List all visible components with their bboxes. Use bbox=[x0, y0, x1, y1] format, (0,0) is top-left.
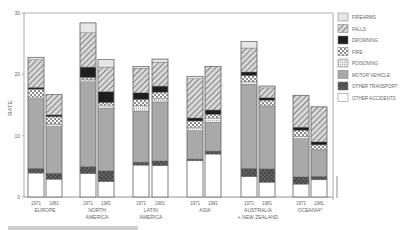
segment-other-accidents bbox=[28, 173, 44, 197]
year-label: 1981 bbox=[155, 201, 166, 206]
legend-item-drowning: DROWNING bbox=[338, 36, 378, 44]
legend-swatch bbox=[338, 94, 348, 102]
year-label: 1971 bbox=[244, 201, 255, 206]
segment-falls bbox=[133, 68, 149, 93]
bar-asia-1981 bbox=[205, 66, 221, 197]
segment-motor-vehicle bbox=[293, 139, 309, 177]
year-label: 1981 bbox=[262, 201, 273, 206]
plot-frame bbox=[24, 13, 333, 200]
segment-firearms bbox=[241, 41, 257, 48]
segment-other-transport bbox=[187, 159, 203, 161]
footnote bbox=[8, 226, 138, 230]
segment-fire bbox=[311, 145, 327, 149]
year-label: 1981 bbox=[101, 201, 112, 206]
bar-oceania--1971 bbox=[293, 95, 309, 197]
segment-falls bbox=[205, 66, 221, 110]
segment-falls bbox=[293, 95, 309, 127]
legend-label: FIRE bbox=[352, 50, 362, 55]
segment-other-accidents bbox=[259, 182, 275, 197]
bar-australia-new-zealand-1981 bbox=[259, 86, 275, 197]
segment-falls bbox=[28, 60, 44, 88]
year-label: 1971 bbox=[31, 201, 42, 206]
group-label: EUROPE bbox=[34, 207, 56, 213]
bar-asia-1971 bbox=[187, 76, 203, 197]
segment-poisoning bbox=[28, 97, 44, 99]
year-label: 1971 bbox=[136, 201, 147, 206]
segment-drowning bbox=[80, 67, 96, 77]
segment-other-transport bbox=[46, 173, 62, 179]
segment-other-accidents bbox=[46, 179, 62, 197]
bar-europe-1981 bbox=[46, 95, 62, 197]
year-label: 1971 bbox=[296, 201, 307, 206]
year-label: 1981 bbox=[208, 201, 219, 206]
group-label: LATIN bbox=[144, 207, 158, 213]
segment-drowning bbox=[133, 93, 149, 100]
group-label: NORTH bbox=[88, 207, 106, 213]
segment-falls bbox=[152, 62, 168, 86]
legend-item-motor-vehicle: MOTOR VEHICLE bbox=[338, 71, 390, 79]
segment-fire bbox=[98, 103, 114, 105]
segment-drowning bbox=[311, 142, 327, 145]
segment-falls bbox=[98, 67, 114, 92]
bar-oceania--1981 bbox=[311, 107, 327, 197]
year-label: 1971 bbox=[190, 201, 201, 206]
segment-other-transport bbox=[98, 171, 114, 182]
segment-firearms bbox=[98, 60, 114, 67]
legend-item-firearms: FIREARMS bbox=[338, 13, 376, 21]
segment-poisoning bbox=[205, 118, 221, 122]
legend-item-other-transport: OTHER TRANSPORT bbox=[338, 82, 398, 90]
x-axis-labels: 1971198119711981197119811971198119711981… bbox=[31, 201, 325, 220]
segment-drowning bbox=[205, 110, 221, 114]
bar-latin-america-1971 bbox=[133, 66, 149, 197]
year-label: 1981 bbox=[49, 201, 60, 206]
segment-fire bbox=[241, 76, 257, 82]
segment-poisoning bbox=[46, 124, 62, 126]
legend: FIREARMSFALLSDROWNINGFIREPOISONINGMOTOR … bbox=[338, 13, 398, 102]
segment-other-transport bbox=[241, 168, 257, 177]
segment-drowning bbox=[28, 87, 44, 89]
segment-other-transport bbox=[293, 177, 309, 184]
segment-fire bbox=[259, 100, 275, 105]
y-tick-label: 20 bbox=[14, 71, 20, 77]
y-axis: 0102030 bbox=[14, 10, 24, 200]
legend-label: POISONING bbox=[352, 61, 378, 66]
segment-drowning bbox=[293, 127, 309, 130]
legend-swatch bbox=[338, 59, 348, 67]
segment-motor-vehicle bbox=[80, 82, 96, 167]
legend-label: OTHER TRANSPORT bbox=[352, 84, 398, 89]
legend-label: FALLS bbox=[352, 27, 366, 32]
legend-label: DROWNING bbox=[352, 38, 378, 43]
segment-motor-vehicle bbox=[98, 108, 114, 171]
segment-other-transport bbox=[311, 176, 327, 180]
group-label: AMERICA bbox=[86, 214, 109, 220]
segment-other-accidents bbox=[133, 165, 149, 197]
segment-firearms bbox=[187, 76, 203, 78]
segment-other-transport bbox=[28, 168, 44, 173]
legend-swatch bbox=[338, 25, 348, 33]
segment-drowning bbox=[152, 86, 168, 92]
legend-swatch bbox=[338, 13, 348, 21]
segment-fire bbox=[80, 77, 96, 79]
segment-drowning bbox=[241, 72, 257, 76]
legend-swatch bbox=[338, 36, 348, 44]
legend-swatch bbox=[338, 82, 348, 90]
segment-drowning bbox=[187, 118, 203, 121]
year-label: 1971 bbox=[83, 201, 94, 206]
segment-motor-vehicle bbox=[241, 84, 257, 168]
segment-other-accidents bbox=[241, 177, 257, 197]
legend-item-other-accidents: OTHER ACCIDENTS bbox=[338, 94, 396, 102]
segment-poisoning bbox=[80, 79, 96, 81]
segment-motor-vehicle bbox=[46, 127, 62, 174]
segment-other-accidents bbox=[98, 182, 114, 197]
segment-poisoning bbox=[133, 106, 149, 112]
segment-fire bbox=[46, 117, 62, 124]
segment-other-transport bbox=[259, 169, 275, 182]
segment-fire bbox=[28, 89, 44, 97]
segment-motor-vehicle bbox=[205, 122, 221, 151]
segment-drowning bbox=[98, 92, 114, 103]
segment-other-transport bbox=[133, 162, 149, 165]
legend-item-poisoning: POISONING bbox=[338, 59, 378, 67]
segment-firearms bbox=[28, 57, 44, 59]
group-label: AUSTRALIA bbox=[244, 207, 272, 213]
group-label: + NEW ZEALAND bbox=[238, 214, 279, 220]
